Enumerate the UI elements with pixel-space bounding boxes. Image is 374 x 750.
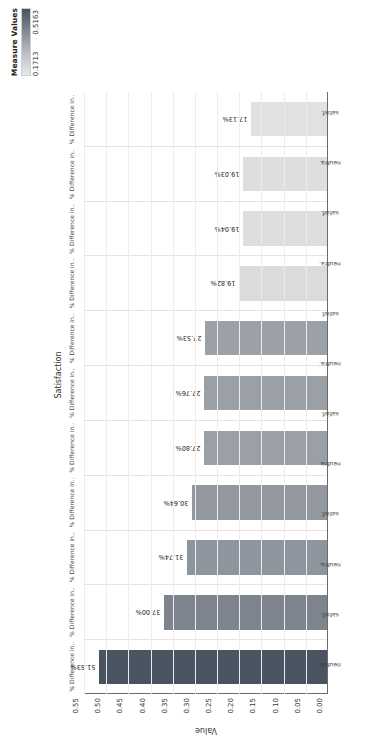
gridline [106, 92, 107, 694]
gridline [217, 92, 218, 694]
column-header: % Difference in.. [68, 585, 82, 640]
value-axis-tick: 0.10 [272, 698, 280, 714]
category-label: neutra. [319, 562, 341, 569]
legend-title: Measure Values [10, 8, 19, 76]
category-tick: neutra. [328, 343, 374, 393]
gridline [151, 92, 152, 694]
bar-column[interactable]: 30.64% [84, 475, 327, 530]
value-axis-tick: 0.55 [72, 698, 80, 714]
bar[interactable] [251, 102, 327, 136]
bar-column[interactable]: 27.76% [84, 365, 327, 420]
category-tick: neutra. [328, 543, 374, 593]
gridline [261, 92, 262, 694]
value-axis-tick: 0.35 [161, 698, 169, 714]
category-label: satisf. [321, 311, 339, 318]
value-axis-tick: 0.40 [139, 698, 147, 714]
bar-column[interactable]: 17.13% [84, 92, 327, 146]
column-header: % Difference in.. [68, 147, 82, 202]
gridline [306, 92, 307, 694]
category-label: neutra. [319, 160, 341, 167]
bar-value-label: 31.74% [158, 553, 183, 561]
bar-value-label: 19.03% [215, 170, 240, 178]
gridline [195, 92, 196, 694]
bar[interactable] [204, 431, 327, 465]
bar[interactable] [164, 595, 327, 629]
value-axis-title: Value [146, 726, 266, 735]
gridline [239, 92, 240, 694]
column-header: % Difference in.. [68, 311, 82, 366]
legend: Measure Values 0.1713 0.5163 [10, 8, 40, 76]
category-tick: satisf. [328, 192, 374, 242]
bar-value-label: 27.80% [176, 444, 201, 452]
category-tick: neutra. [328, 142, 374, 192]
legend-max-value: 0.5163 [32, 10, 40, 35]
category-label: neutra. [319, 261, 341, 268]
column-header: % Difference in.. [68, 201, 82, 256]
legend-gradient-bar [21, 8, 31, 76]
value-axis-tick: 0.30 [183, 698, 191, 714]
value-axis-tick: 0.20 [227, 698, 235, 714]
column-header: % Difference in.. [68, 256, 82, 311]
category-tick: satisf. [328, 92, 374, 142]
bar[interactable] [243, 211, 327, 245]
column-header: % Difference in.. [68, 92, 82, 147]
bar-value-label: 51.63% [70, 663, 95, 671]
category-label: neutra. [319, 662, 341, 669]
chart-canvas: Measure Values 0.1713 0.5163 Satisfactio… [0, 0, 374, 750]
bar-column[interactable]: 27.80% [84, 420, 327, 475]
bar-column[interactable]: 19.04% [84, 201, 327, 256]
bar-value-label: 27.76% [176, 389, 201, 397]
category-label: satisf. [321, 110, 339, 117]
gridline [84, 92, 85, 694]
bar-value-label: 27.53% [177, 334, 202, 342]
category-label: satisf. [321, 612, 339, 619]
value-axis-tick: 0.25 [205, 698, 213, 714]
gridline [173, 92, 174, 694]
bar-value-label: 37.00% [135, 608, 160, 616]
category-tick: neutra. [328, 644, 374, 694]
value-axis-tick: 0.00 [316, 698, 324, 714]
legend-ticks: 0.1713 0.5163 [32, 10, 40, 76]
rotated-screenshot-frame: Measure Values 0.1713 0.5163 Satisfactio… [0, 0, 374, 750]
plot-area: 51.63%37.00%31.74%30.64%27.80%27.76%27.5… [84, 92, 328, 694]
chart-plot-wrapper: Measure Values 0.1713 0.5163 Satisfactio… [0, 0, 374, 750]
bar[interactable] [205, 321, 327, 355]
bar[interactable] [243, 157, 327, 191]
category-tick: neutra. [328, 443, 374, 493]
column-header: % Difference in.. [68, 475, 82, 530]
value-axis-tick: 0.45 [116, 698, 124, 714]
bar-column[interactable]: 19.82% [84, 256, 327, 311]
gridline [128, 92, 129, 694]
category-label: neutra. [319, 361, 341, 368]
bar-column[interactable]: 31.74% [84, 530, 327, 585]
category-label: satisf. [321, 511, 339, 518]
category-tick: satisf. [328, 293, 374, 343]
bar-value-label: 30.64% [163, 499, 188, 507]
bar[interactable] [99, 650, 327, 684]
value-axis-tick: 0.50 [94, 698, 102, 714]
bar-columns: 51.63%37.00%31.74%30.64%27.80%27.76%27.5… [84, 92, 327, 694]
panel-title: Satisfaction [54, 0, 63, 750]
category-axis: neutra.satisf.neutra.satisf.neutra.satis… [328, 92, 374, 694]
bar-value-label: 17.13% [223, 115, 248, 123]
column-header: % Difference in.. [68, 420, 82, 475]
column-header: % Difference in.. [68, 366, 82, 421]
value-axis-tick: 0.15 [249, 698, 257, 714]
bar-value-label: 19.04% [214, 225, 239, 233]
bar-column[interactable]: 19.03% [84, 146, 327, 201]
bar-value-label: 19.82% [211, 279, 236, 287]
category-label: neutra. [319, 461, 341, 468]
bar-column[interactable]: 27.53% [84, 310, 327, 365]
value-axis: Value 0.000.050.100.150.200.250.300.350.… [84, 694, 328, 750]
category-label: satisf. [321, 210, 339, 217]
bar-column[interactable]: 37.00% [84, 584, 327, 639]
category-tick: neutra. [328, 242, 374, 292]
category-tick: satisf. [328, 393, 374, 443]
bar-column[interactable]: 51.63% [84, 639, 327, 694]
legend-min-value: 0.1713 [32, 52, 40, 77]
category-tick: satisf. [328, 493, 374, 543]
bar[interactable] [204, 376, 327, 410]
category-label: satisf. [321, 411, 339, 418]
value-axis-tick: 0.05 [294, 698, 302, 714]
column-header-strip: % Difference in..% Difference in..% Diff… [68, 92, 82, 694]
